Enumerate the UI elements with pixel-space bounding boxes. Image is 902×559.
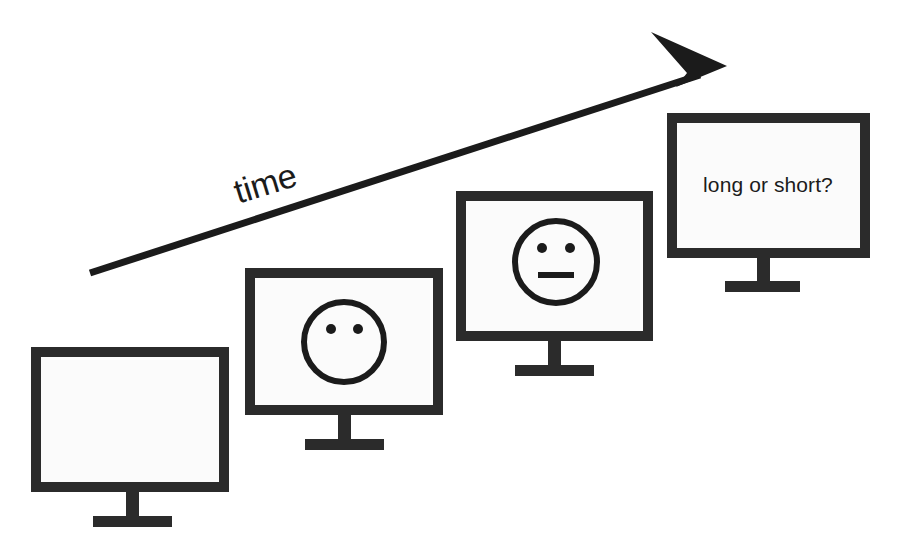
arrowhead-icon (651, 32, 727, 87)
monitor-face-eyes-only[interactable] (250, 273, 438, 450)
face-eye-right (353, 324, 363, 334)
monitor-frame (250, 273, 438, 410)
time-axis-label: time (229, 156, 301, 211)
monitor-blank[interactable] (36, 352, 224, 527)
diagram-canvas: time (0, 0, 902, 559)
monitor-face-neutral[interactable] (461, 196, 648, 376)
face-eye-left (326, 324, 336, 334)
face-eye-left (537, 243, 547, 253)
monitor-frame (36, 352, 224, 487)
monitor-frame (461, 196, 648, 336)
monitor-question[interactable]: long or short? (672, 118, 865, 292)
timeline-monitors-diagram: time (0, 0, 902, 559)
time-axis-label-group: time (229, 156, 301, 211)
face-eye-right (565, 243, 575, 253)
monitor-screen-text: long or short? (703, 173, 833, 196)
